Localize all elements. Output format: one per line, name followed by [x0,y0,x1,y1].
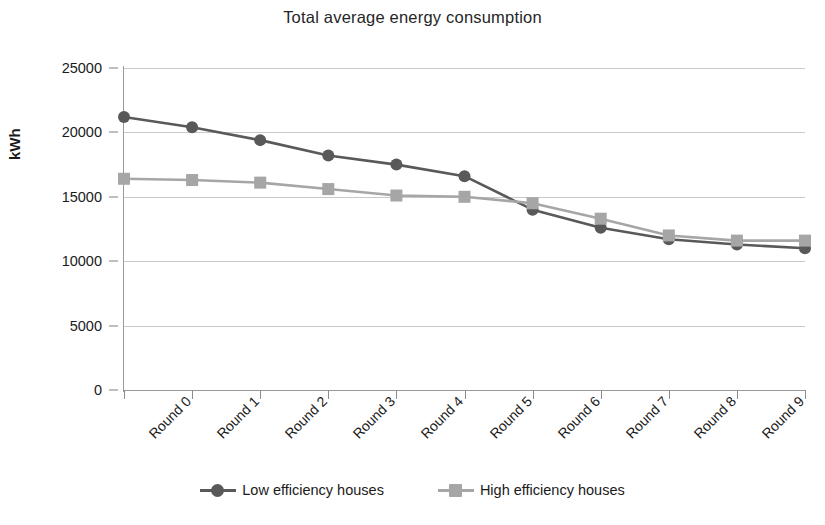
legend-marker-circle-icon [200,483,236,497]
data-point [118,173,130,185]
x-tick-label: Round 9 [758,393,807,442]
plot-area [124,68,805,390]
chart-legend: Low efficiency houses High efficiency ho… [0,475,825,505]
data-point [322,150,334,162]
x-tick-label: Round 3 [350,393,399,442]
data-point [390,190,402,202]
y-tick-mark [109,68,118,69]
x-tick-label: Round 8 [690,393,739,442]
data-point [459,170,471,182]
legend-item-low-efficiency[interactable]: Low efficiency houses [200,482,384,498]
y-axis-ticks: 0500010000150002000025000 [0,68,118,390]
data-point [595,213,607,225]
legend-label-low-efficiency: Low efficiency houses [242,482,384,498]
y-tick-label: 5000 [70,318,102,334]
x-axis-labels: Round 0Round 1Round 2Round 3Round 4Round… [0,393,825,473]
data-point [186,174,198,186]
data-point [459,191,471,203]
x-tick-label: Round 0 [146,393,195,442]
y-tick-mark [109,196,118,197]
x-tick-label: Round 2 [282,393,331,442]
data-point [186,121,198,133]
data-point [799,235,811,247]
y-tick-mark [109,261,118,262]
y-tick-mark [109,132,118,133]
chart-title: Total average energy consumption [0,8,825,27]
legend-item-high-efficiency[interactable]: High efficiency houses [438,482,625,498]
series-layer [124,68,805,390]
y-tick-label: 20000 [62,124,102,140]
chart-container: Total average energy consumption kWh 050… [0,0,825,525]
y-tick-label: 15000 [62,189,102,205]
y-tick-mark [109,390,118,391]
x-tick-label: Round 7 [622,393,671,442]
y-tick-label: 10000 [62,253,102,269]
y-tick-mark [109,325,118,326]
data-point [527,197,539,209]
y-tick-label: 25000 [62,60,102,76]
data-point [390,159,402,171]
x-tick-label: Round 4 [418,393,467,442]
x-tick-label: Round 6 [554,393,603,442]
series-line-high-efficiency [124,179,805,241]
data-point [663,229,675,241]
data-point [322,183,334,195]
legend-label-high-efficiency: High efficiency houses [480,482,625,498]
data-point [254,134,266,146]
legend-marker-square-icon [438,483,474,497]
x-tick-label: Round 1 [214,393,263,442]
data-point [731,235,743,247]
x-tick-label: Round 5 [486,393,535,442]
data-point [118,111,130,123]
data-point [254,177,266,189]
